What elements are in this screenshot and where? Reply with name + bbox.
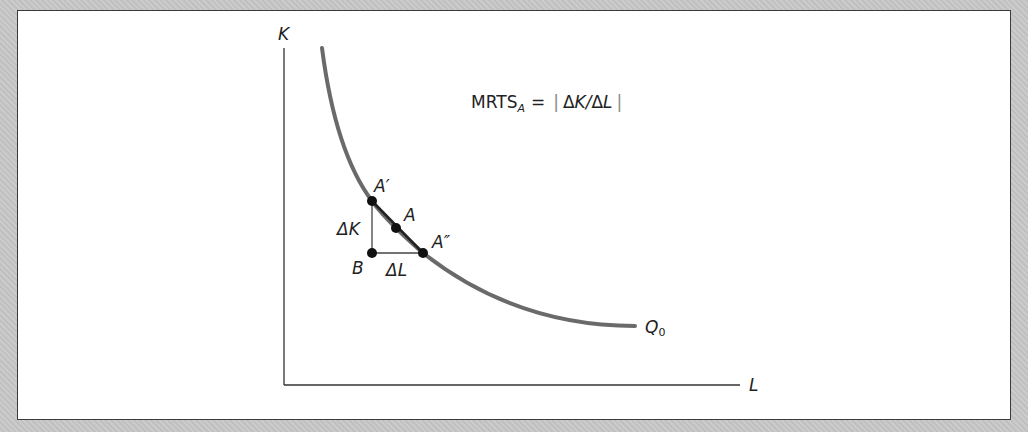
label-b: B [352,258,364,278]
formula-abs-open: | [553,92,559,112]
formula-subscript: A [516,102,525,115]
isoquant-curve [322,48,635,326]
point-a [391,223,401,233]
formula-delta-l-symbol: Δ [591,92,603,112]
formula-abs-close: | [617,92,623,112]
label-a-double-prime: A″ [431,232,451,252]
point-b [367,248,377,258]
formula-delta-k-symbol: Δ [563,92,575,112]
isoquant-diagram: K L A′ A A″ B ΔK ΔL Q0 MRTSA=|ΔK/ΔL| [0,0,1028,432]
point-a-prime [367,196,377,206]
formula-mrts: MRTS [471,92,517,112]
label-delta-k: ΔK [335,219,362,239]
label-delta-l: ΔL [384,260,407,280]
formula-equals: = [531,92,545,112]
y-axis-label: K [278,24,291,44]
curve-label-sub: 0 [658,326,665,339]
mrts-formula: MRTSA=|ΔK/ΔL| [471,92,622,115]
point-a-double-prime [418,248,428,258]
formula-l: L [603,92,612,112]
curve-label: Q0 [645,317,665,339]
label-a: A [403,205,416,225]
label-a-prime: A′ [373,176,390,196]
curve-label-main: Q [645,317,658,337]
x-axis-label: L [749,375,758,395]
